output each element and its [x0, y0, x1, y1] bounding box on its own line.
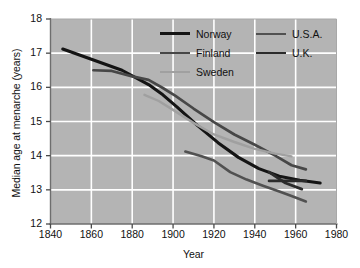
- x-axis-label: Year: [50, 248, 337, 260]
- line-swatch-icon: [160, 71, 190, 73]
- y-axis-tick-label: 12: [18, 217, 42, 229]
- x-axis-tick-label: 1840: [31, 228, 71, 240]
- legend-item-finland: Finland: [160, 43, 234, 62]
- y-axis-tick-label: 17: [18, 46, 42, 58]
- chart-legend: NorwayFinlandSwedenU.S.A.U.K.: [160, 24, 338, 82]
- y-axis-tick-label: 14: [18, 149, 42, 161]
- legend-label: Sweden: [196, 66, 234, 78]
- legend-item-u-k: U.K.: [256, 43, 322, 62]
- legend-label: Norway: [196, 28, 232, 40]
- x-axis-tick-label: 1880: [112, 228, 152, 240]
- legend-label: U.K.: [292, 47, 312, 59]
- y-axis-tick-label: 16: [18, 80, 42, 92]
- x-axis-tick-label: 1980: [317, 228, 357, 240]
- line-swatch-icon: [256, 33, 286, 35]
- legend-item-u-s-a: U.S.A.: [256, 24, 322, 43]
- legend-column: NorwayFinlandSweden: [160, 24, 234, 81]
- x-axis-tick-label: 1960: [276, 228, 316, 240]
- line-swatch-icon: [160, 32, 190, 35]
- y-axis-tick-label: 15: [18, 115, 42, 127]
- line-swatch-icon: [160, 52, 190, 54]
- legend-column: U.S.A.U.K.: [256, 24, 322, 62]
- legend-item-norway: Norway: [160, 24, 234, 43]
- x-axis-tick-label: 1940: [235, 228, 275, 240]
- legend-item-sweden: Sweden: [160, 62, 234, 81]
- chart-figure: Median age at menarche (years) Year 1840…: [0, 0, 360, 268]
- line-swatch-icon: [256, 52, 286, 54]
- x-axis-tick-label: 1900: [153, 228, 193, 240]
- x-axis-tick-label: 1920: [194, 228, 234, 240]
- legend-label: Finland: [196, 47, 230, 59]
- y-axis-tick-label: 13: [18, 183, 42, 195]
- x-axis-tick-label: 1860: [71, 228, 111, 240]
- y-axis-tick-label: 18: [18, 12, 42, 24]
- legend-label: U.S.A.: [292, 28, 322, 40]
